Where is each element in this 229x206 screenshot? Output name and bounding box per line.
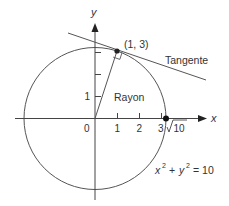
- x-tick-label-2: 2: [137, 123, 143, 134]
- intercept-label: 10: [174, 123, 186, 134]
- equation-x-exponent: 2: [162, 162, 166, 169]
- y-axis-arrow-icon: [92, 23, 99, 32]
- equation-y-exponent: 2: [186, 162, 190, 169]
- diagram-svg: y x 0 1 2 3 1 10 (1, 3) Tangente Rayon x…: [0, 0, 229, 206]
- equation-rhs: = 10: [193, 164, 214, 176]
- x-tick-label-3: 3: [158, 123, 164, 134]
- radius-label: Rayon: [114, 91, 145, 103]
- x-axis-label: x: [210, 112, 217, 124]
- tangent-point: [114, 48, 119, 53]
- x-intercept-point: [163, 116, 169, 122]
- x-axis-arrow-icon: [198, 115, 207, 122]
- equation-x: x: [154, 164, 161, 176]
- y-axis-label: y: [90, 6, 98, 18]
- equation-plus: +: [169, 164, 175, 176]
- radius-line: [95, 51, 117, 119]
- equation-y: y: [178, 164, 185, 176]
- x-tick-label-1: 1: [115, 123, 121, 134]
- y-tick-label-1: 1: [85, 91, 91, 102]
- tangent-label: Tangente: [165, 54, 208, 66]
- circle-equation: x 2 + y 2 = 10: [154, 162, 214, 176]
- diagram-canvas: y x 0 1 2 3 1 10 (1, 3) Tangente Rayon x…: [0, 0, 229, 206]
- point-label: (1, 3): [124, 38, 149, 50]
- origin-label: 0: [84, 123, 90, 134]
